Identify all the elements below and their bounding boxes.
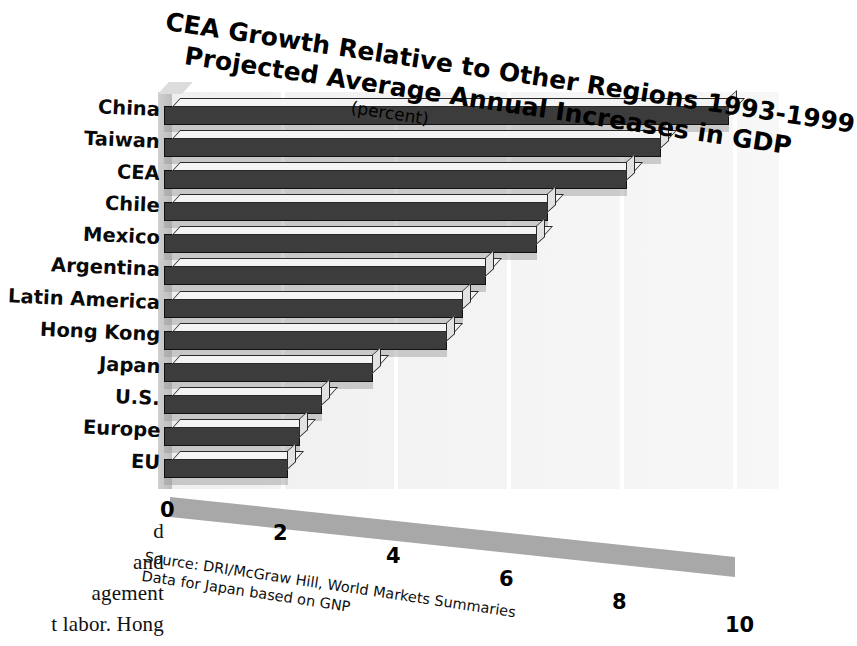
category-label-chile: Chile — [105, 192, 161, 217]
bar-face-taiwan[interactable] — [164, 138, 661, 157]
bar-face-japan[interactable] — [164, 363, 373, 382]
bar-top-face — [172, 451, 304, 460]
category-label-europe: Europe — [82, 415, 160, 441]
bar-face-eu[interactable] — [164, 459, 288, 478]
bar-row — [164, 363, 373, 390]
bar-top-face — [172, 130, 677, 139]
category-label-cea: CEA — [117, 160, 161, 185]
bar-face-china[interactable] — [164, 106, 729, 125]
bar-top-face — [172, 98, 745, 107]
bar-face-latin-america[interactable] — [164, 299, 463, 318]
bar-face-u-s-[interactable] — [164, 395, 322, 414]
bar-face-chile[interactable] — [164, 202, 548, 221]
category-label-eu: EU — [130, 450, 160, 474]
bar-shadow — [164, 478, 288, 485]
bar-face-cea[interactable] — [164, 170, 627, 189]
bar-row — [164, 331, 447, 358]
bar-row — [164, 427, 300, 454]
bar-top-face — [172, 419, 316, 428]
bar-top-face — [172, 162, 643, 171]
bar-top-face — [172, 258, 502, 267]
category-label-u-s-: U.S. — [115, 385, 161, 410]
x-tick-2: 2 — [273, 521, 288, 545]
bar-row — [164, 459, 288, 486]
x-tick-6: 6 — [499, 567, 514, 591]
bar-top-face — [172, 355, 389, 364]
category-label-china: China — [98, 95, 161, 121]
category-label-japan: Japan — [98, 352, 160, 378]
bar-top-face — [172, 194, 564, 203]
bar-row — [164, 106, 729, 133]
bar-top-face — [172, 323, 463, 332]
bar-end-cap — [728, 90, 737, 117]
category-label-hong-kong: Hong Kong — [39, 317, 160, 345]
x-tick-10: 10 — [725, 613, 754, 637]
bar-top-face — [172, 387, 338, 396]
x-tick-8: 8 — [612, 590, 627, 614]
bar-face-europe[interactable] — [164, 427, 300, 446]
bar-row — [164, 266, 486, 293]
category-label-taiwan: Taiwan — [84, 127, 161, 153]
bar-face-argentina[interactable] — [164, 266, 486, 285]
category-label-mexico: Mexico — [83, 223, 161, 249]
bar-face-mexico[interactable] — [164, 234, 537, 253]
bar-face-hong-kong[interactable] — [164, 331, 447, 350]
bar-top-face — [172, 291, 480, 300]
x-tick-0: 0 — [160, 498, 175, 522]
x-tick-4: 4 — [386, 544, 401, 568]
bar-row — [164, 299, 463, 326]
bar-top-face — [172, 226, 553, 235]
